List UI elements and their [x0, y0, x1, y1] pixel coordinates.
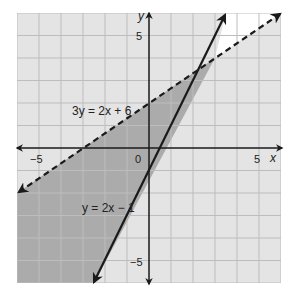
- inequality-graph: y x 5 −5 −5 5 0 3y = 2x + 6 y = 2x − 1: [0, 0, 296, 301]
- x-tick-5: 5: [254, 153, 260, 165]
- y-axis-label: y: [137, 9, 145, 23]
- x-tick-neg5: −5: [30, 153, 43, 165]
- solid-line-equation: y = 2x − 1: [82, 201, 135, 215]
- y-tick-5: 5: [136, 30, 142, 42]
- x-axis-label: x: [269, 151, 277, 165]
- origin-label: 0: [135, 153, 141, 165]
- y-tick-neg5: −5: [130, 256, 143, 268]
- plot-area: [17, 13, 282, 284]
- dashed-line-equation: 3y = 2x + 6: [72, 104, 132, 118]
